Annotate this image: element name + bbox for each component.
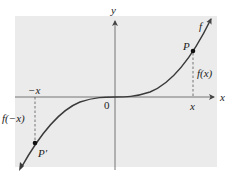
y-axis-label: y xyxy=(110,4,116,16)
point-p-prime xyxy=(33,141,38,146)
odd-function-graph: y x 0 f P P′ f(x) f(−x) x −x xyxy=(0,0,232,179)
fx-label: f(x) xyxy=(197,67,213,80)
tick-x-label: x xyxy=(189,100,195,112)
point-p-label: P xyxy=(182,40,190,52)
x-axis-label: x xyxy=(219,91,225,103)
point-p-prime-label: P′ xyxy=(37,147,48,159)
plot-background xyxy=(15,16,217,167)
tick-neg-x-label: −x xyxy=(28,84,40,96)
f-neg-x-label: f(−x) xyxy=(2,112,25,125)
origin-label: 0 xyxy=(104,99,110,111)
point-p xyxy=(191,49,196,54)
